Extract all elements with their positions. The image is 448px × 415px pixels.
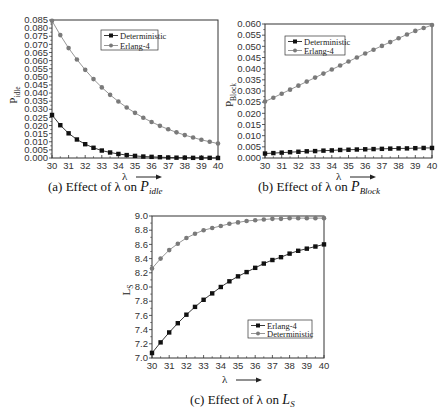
data-point	[380, 44, 385, 49]
data-point	[321, 71, 326, 76]
data-point	[296, 249, 300, 253]
y-axis-label: PBlock	[223, 83, 238, 107]
data-point	[363, 147, 367, 151]
data-point	[330, 67, 335, 72]
data-point	[193, 305, 197, 309]
figure: 30313233343536373839400.0000.0050.0100.0…	[0, 0, 448, 415]
x-tick-label: 38	[393, 160, 404, 171]
figure-caption: (c) Effect of λ on LS	[190, 392, 295, 409]
data-point	[305, 216, 310, 221]
data-point	[176, 321, 180, 325]
legend-square-marker-icon	[109, 34, 113, 38]
x-tick-label: 32	[80, 160, 91, 171]
data-point	[313, 149, 317, 153]
y-tick-label: 0.030	[237, 85, 261, 96]
data-point	[338, 148, 342, 152]
data-point	[304, 79, 309, 84]
x-tick-label: 39	[410, 160, 421, 171]
data-point	[330, 148, 334, 152]
legend-label: Erlang-4	[120, 41, 150, 51]
x-tick-label: 34	[216, 360, 227, 371]
data-point	[270, 258, 274, 262]
y-tick-label: 8.8	[135, 224, 148, 235]
data-point	[116, 99, 121, 104]
x-tick-label: 31	[276, 160, 287, 171]
legend-label: Deterministic	[267, 329, 313, 339]
data-point	[271, 95, 276, 100]
x-tick-label: 33	[97, 160, 108, 171]
data-point	[305, 246, 309, 250]
y-tick-label: 0.015	[237, 119, 261, 130]
legend-square-marker-icon	[256, 324, 260, 328]
data-point	[355, 55, 360, 60]
data-point	[253, 266, 257, 270]
data-point	[405, 146, 409, 150]
y-tick-label: 0.050	[237, 41, 261, 52]
x-tick-label: 36	[146, 160, 157, 171]
figure-caption: (b) Effect of λ on PBlock	[258, 179, 381, 196]
data-point	[66, 131, 70, 135]
data-point	[50, 113, 54, 117]
x-tick-label: 40	[319, 360, 330, 371]
data-point	[166, 127, 171, 132]
data-point	[219, 285, 223, 289]
data-point	[270, 217, 275, 222]
data-point	[208, 156, 212, 160]
y-tick-label: 8.2	[135, 267, 148, 278]
data-point	[388, 40, 393, 45]
y-tick-label: 0.085	[24, 14, 48, 25]
data-point	[322, 216, 327, 221]
data-point	[133, 111, 138, 116]
data-point	[287, 251, 291, 255]
data-point	[216, 141, 221, 146]
y-tick-label: 7.0	[135, 352, 148, 363]
data-point	[396, 146, 400, 150]
data-point	[371, 147, 375, 151]
data-point	[149, 120, 154, 125]
x-tick-label: 37	[267, 360, 278, 371]
y-tick-label: 0.035	[237, 74, 261, 85]
data-point	[108, 150, 112, 154]
data-point	[322, 242, 326, 246]
data-point	[66, 46, 71, 51]
legend-circle-marker-icon	[293, 49, 297, 53]
data-point	[91, 146, 95, 150]
y-axis-label: LS	[120, 285, 135, 296]
data-point	[210, 226, 215, 231]
y-tick-label: 7.2	[135, 338, 148, 349]
x-tick-label: 39	[302, 360, 313, 371]
x-tick-label: 37	[377, 160, 388, 171]
x-tick-label: 32	[293, 160, 304, 171]
data-point	[150, 351, 154, 355]
data-point	[199, 138, 204, 143]
data-point	[430, 146, 434, 150]
data-point	[388, 146, 392, 150]
data-point	[158, 155, 162, 159]
data-point	[305, 149, 309, 153]
data-point	[141, 115, 146, 120]
y-tick-label: 8.0	[135, 281, 148, 292]
x-tick-label: 30	[260, 160, 271, 171]
x-tick-label: 38	[180, 160, 191, 171]
data-point	[184, 312, 188, 316]
x-tick-label: 40	[213, 160, 224, 171]
data-point	[58, 123, 62, 127]
data-point	[174, 130, 179, 135]
legend-circle-marker-icon	[256, 332, 260, 336]
legend: DeterministicErlang-4	[101, 30, 166, 51]
data-point	[413, 29, 418, 34]
x-tick-label: 31	[63, 160, 74, 171]
x-tick-label: 38	[284, 360, 295, 371]
legend-circle-marker-icon	[109, 44, 113, 48]
y-tick-label: 9.0	[135, 210, 148, 221]
data-point	[296, 150, 300, 154]
data-point	[149, 155, 153, 159]
y-axis-label: Pidle	[7, 86, 22, 104]
data-point	[167, 330, 171, 334]
data-point	[338, 63, 343, 68]
data-point	[421, 26, 426, 31]
data-point	[150, 266, 155, 271]
data-point	[263, 151, 267, 155]
data-point	[174, 155, 178, 159]
data-point	[141, 154, 145, 158]
